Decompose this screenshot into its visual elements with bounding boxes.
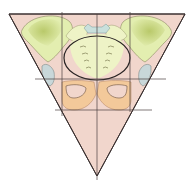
pelvis-diagram-svg [0,0,193,194]
pelvis-diagram [0,0,193,194]
